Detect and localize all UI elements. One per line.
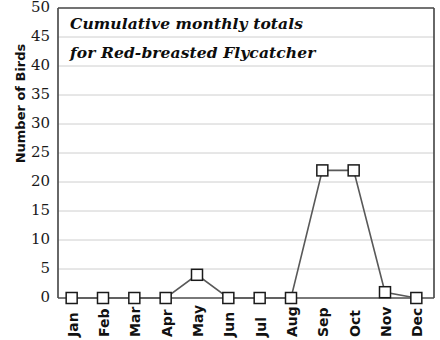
x-tick-jan: Jan (65, 312, 81, 337)
x-tick-dec: Dec (409, 308, 425, 337)
x-tick-feb: Feb (96, 308, 112, 337)
x-tick-mar: Mar (127, 307, 143, 337)
chart-title-line-2: for Red-breasted Flycatcher (70, 43, 315, 62)
x-tick-aug: Aug (284, 306, 300, 337)
x-tick-oct: Oct (347, 310, 363, 337)
x-tick-jul: Jul (253, 317, 269, 337)
x-tick-apr: Apr (159, 309, 175, 337)
x-tick-may: May (190, 305, 206, 337)
chart-figure: Number of Birds 05101520253035404550 Jan… (0, 0, 440, 340)
x-tick-sep: Sep (315, 307, 331, 337)
data-point-markers (66, 165, 422, 304)
x-tick-nov: Nov (378, 307, 394, 337)
x-tick-jun: Jun (221, 312, 237, 337)
chart-title-line-1: Cumulative monthly totals (70, 14, 303, 33)
data-line-series (72, 170, 417, 298)
